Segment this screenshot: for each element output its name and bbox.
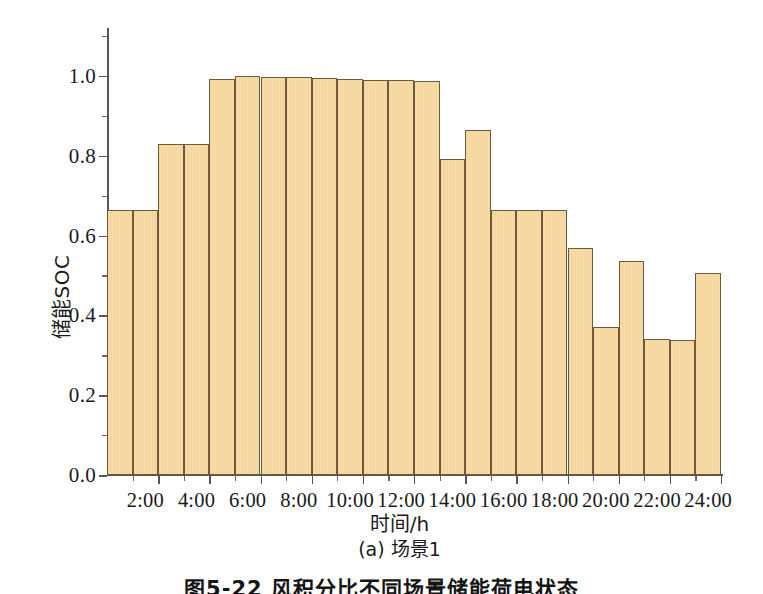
y-tick-minor [102,275,107,276]
bar [695,273,721,475]
x-tick [568,476,569,484]
bar [286,77,312,475]
bar [593,327,619,475]
y-tick-label: 0.2 [69,383,96,408]
x-tick-minor [491,476,492,481]
y-tick-minor [102,196,107,197]
x-tick [619,476,620,484]
bar [568,248,594,475]
plot-area: 0.00.20.40.60.81.0 [107,28,721,475]
bar [337,79,363,475]
bar [491,210,517,475]
y-tick-label: 0.8 [69,143,96,168]
y-tick-label: 0.6 [69,223,96,248]
bar [440,159,466,475]
x-tick [312,476,313,484]
figure-caption: 图5-22 风积分比不同场景储能荷电状态 [0,572,763,594]
y-tick [99,395,107,397]
bar [619,261,645,475]
x-tick [209,476,210,484]
x-tick-minor [337,476,338,481]
sub-caption: (a) 场景1 [0,534,763,561]
x-tick [414,476,415,484]
bar [388,80,414,475]
y-tick-minor [102,36,107,37]
bar [158,144,184,475]
bar [261,77,287,475]
x-tick [465,476,466,484]
figure-container: 储能SOC 0.00.20.40.60.81.0 2:004:006:008:0… [0,0,763,594]
bar-series [107,28,721,475]
bar [542,210,568,475]
y-tick-minor [102,116,107,117]
x-tick-minor [286,476,287,481]
x-tick [721,476,722,484]
bar [107,210,133,475]
bar [209,79,235,475]
x-tick-minor [133,476,134,481]
bar [133,210,159,475]
y-tick [99,76,107,78]
x-tick [516,476,517,484]
bar [644,339,670,475]
y-tick [99,475,107,477]
bar [414,81,440,475]
bar [465,130,491,475]
y-tick [99,236,107,238]
x-tick-minor [440,476,441,481]
y-tick-label: 0.0 [69,463,96,488]
bar [363,80,389,476]
x-axis-title: 时间/h [0,508,763,537]
x-tick [363,476,364,484]
x-tick [261,476,262,484]
y-tick-minor [102,355,107,356]
bar [184,144,210,475]
x-tick-minor [695,476,696,481]
bar [670,340,696,475]
x-tick-minor [644,476,645,481]
bar [312,78,338,475]
x-tick [158,476,159,484]
y-tick-label: 1.0 [69,63,96,88]
y-tick-label: 0.4 [69,303,96,328]
x-tick-minor [388,476,389,481]
x-tick [670,476,671,484]
y-tick [99,315,107,317]
y-tick [99,156,107,158]
x-tick-minor [184,476,185,481]
y-tick-minor [102,435,107,436]
bar [235,76,261,475]
x-tick-minor [235,476,236,481]
x-tick-minor [542,476,543,481]
x-tick-minor [593,476,594,481]
bar [516,210,542,475]
